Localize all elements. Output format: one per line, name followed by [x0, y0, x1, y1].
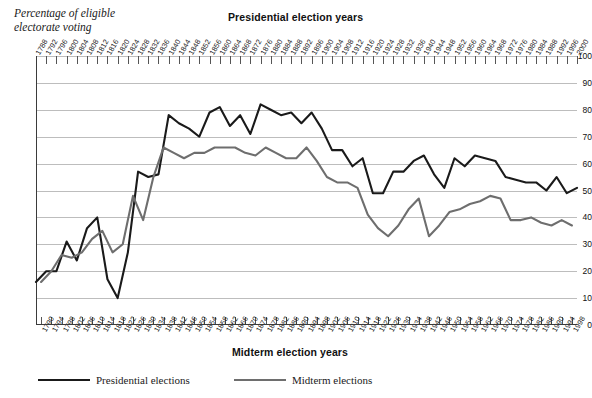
plot-lines — [0, 0, 592, 398]
legend-label-midterm: Midterm elections — [292, 374, 372, 386]
legend-item-midterm: Midterm elections — [234, 372, 372, 388]
chart-legend: Presidential elections Midterm elections — [38, 372, 558, 392]
series-line-presidential — [36, 104, 577, 298]
legend-swatch-midterm — [234, 379, 286, 382]
legend-swatch-presidential — [38, 379, 90, 382]
legend-item-presidential: Presidential elections — [38, 372, 190, 388]
election-turnout-chart: Percentage of eligible electorate voting… — [0, 0, 592, 398]
legend-label-presidential: Presidential elections — [96, 374, 190, 386]
series-line-midterm — [41, 147, 572, 281]
